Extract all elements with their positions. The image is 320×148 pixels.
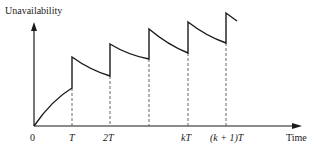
unavailability-curve xyxy=(34,13,237,126)
tick-label-T: T xyxy=(69,132,76,143)
x-axis-arrow-icon xyxy=(292,123,302,129)
y-axis-label: Unavailability xyxy=(5,5,62,16)
y-axis-arrow-icon xyxy=(31,22,37,31)
unavailability-diagram: Unavailability 0 T 2T kT (k + 1)T Time xyxy=(0,0,320,148)
tick-label-2T: 2T xyxy=(103,132,115,143)
x-axis-label: Time xyxy=(286,132,307,143)
origin-label: 0 xyxy=(30,132,35,143)
tick-label-kT: kT xyxy=(181,132,192,143)
tick-label-k-plus-1-T: (k + 1)T xyxy=(210,132,245,144)
